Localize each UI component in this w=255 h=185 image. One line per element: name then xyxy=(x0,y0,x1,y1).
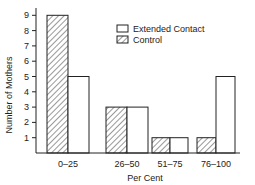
bar-control xyxy=(152,138,170,153)
y-tick-label: 2 xyxy=(24,117,29,127)
x-axis-title: Per Cent xyxy=(127,173,163,183)
legend-swatch-open xyxy=(117,25,128,32)
bar-control xyxy=(106,107,127,153)
y-ticks: 123456789 xyxy=(24,10,36,142)
y-tick-label: 4 xyxy=(24,87,29,97)
x-tick-label: 51–75 xyxy=(157,159,182,169)
y-tick-label: 3 xyxy=(24,102,29,112)
legend-label: Control xyxy=(133,35,162,45)
legend: Extended ContactControl xyxy=(117,24,205,45)
y-tick-label: 8 xyxy=(24,26,29,36)
y-tick-label: 6 xyxy=(24,56,29,66)
legend-label: Extended Contact xyxy=(133,24,205,34)
x-tick-labels: 0–2526–5051–7576–100 xyxy=(58,159,231,169)
bar-control xyxy=(197,138,216,153)
y-tick-label: 9 xyxy=(24,10,29,20)
bar-extended-contact xyxy=(68,77,89,154)
y-axis-title: Number of Mothers xyxy=(4,56,14,134)
bar-extended-contact xyxy=(170,138,188,153)
bar-chart: 123456789 0–2526–5051–7576–100 Number of… xyxy=(0,0,255,185)
y-tick-label: 1 xyxy=(24,133,29,143)
x-tick-label: 26–50 xyxy=(114,159,139,169)
y-tick-label: 5 xyxy=(24,72,29,82)
bar-extended-contact xyxy=(127,107,148,153)
bar-extended-contact xyxy=(216,77,235,154)
legend-swatch-hatched xyxy=(117,36,128,43)
bar-control xyxy=(47,15,68,153)
y-tick-label: 7 xyxy=(24,41,29,51)
x-tick-label: 76–100 xyxy=(201,159,231,169)
x-tick-label: 0–25 xyxy=(58,159,78,169)
